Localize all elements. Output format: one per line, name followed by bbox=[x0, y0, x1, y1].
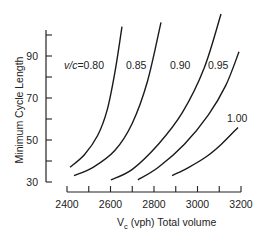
y-tick-label: 50 bbox=[26, 134, 38, 146]
y-tick-label: 30 bbox=[26, 176, 38, 188]
curve-label: 0.95 bbox=[208, 59, 229, 71]
curve-label: 0.85 bbox=[126, 59, 147, 71]
minimum-cycle-length-chart: 3050709024002600280030003200Minimum Cycl… bbox=[0, 0, 258, 237]
curve-vc-100 bbox=[172, 127, 238, 175]
curve-label: v/c=0.80 bbox=[64, 59, 104, 71]
curve-vc-080 bbox=[70, 27, 122, 168]
y-tick-label: 90 bbox=[26, 50, 38, 62]
x-axis-label: Vc (vph) Total volume bbox=[117, 216, 216, 231]
curve-vc-085 bbox=[74, 22, 161, 175]
curve-vc-095 bbox=[138, 52, 239, 180]
y-tick-label: 70 bbox=[26, 92, 38, 104]
chart-canvas: 3050709024002600280030003200Minimum Cycl… bbox=[0, 0, 258, 237]
x-tick-label: 3200 bbox=[229, 198, 253, 210]
x-tick-label: 3000 bbox=[186, 198, 210, 210]
x-tick-label: 2400 bbox=[55, 198, 79, 210]
x-tick-label: 2600 bbox=[99, 198, 123, 210]
x-tick-label: 2800 bbox=[142, 198, 166, 210]
curve-vc-090 bbox=[111, 14, 221, 180]
curve-label: 0.90 bbox=[170, 59, 191, 71]
curve-label: 1.00 bbox=[227, 112, 248, 124]
y-axis-label: Minimum Cycle Length bbox=[13, 56, 25, 163]
